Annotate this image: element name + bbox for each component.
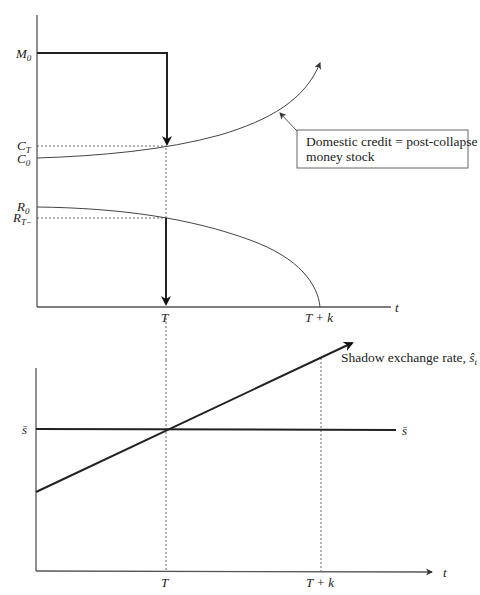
- fixed-rate-line: [36, 429, 396, 430]
- shadow-rate-line: [36, 343, 352, 492]
- reserves-curve: [37, 207, 320, 307]
- top-tick-t-plus-k: T + k: [305, 310, 333, 325]
- top-x-axis-label: t: [395, 300, 399, 315]
- annotation-pointer: [280, 113, 297, 131]
- annotation-line-1: Domestic credit = post-collapse: [306, 134, 477, 149]
- money-stock-line: [37, 53, 167, 144]
- annotation-line-2: money stock: [306, 149, 375, 164]
- sbar-left-label: s̄: [22, 422, 28, 437]
- bottom-chart: t s̄ s̄ Shadow exchange rate, ŝt T T + k: [22, 343, 477, 590]
- sbar-right-label: s̄: [402, 423, 408, 438]
- domestic-credit-curve: [37, 63, 320, 158]
- shadow-rate-label: Shadow exchange rate, ŝt: [341, 350, 477, 367]
- bottom-tick-t: T: [161, 575, 169, 590]
- top-tick-t: T: [161, 310, 169, 325]
- bottom-tick-t-plus-k: T + k: [306, 575, 334, 590]
- bottom-x-axis-label: t: [443, 565, 447, 580]
- top-chart: t M0 CT C0 R0 RT− T T + k Domestic credi…: [12, 15, 477, 360]
- bottom-x-axis: [36, 571, 432, 572]
- speculative-attack-diagram: t M0 CT C0 R0 RT− T T + k Domestic credi…: [0, 0, 480, 595]
- m0-label: M0: [15, 46, 32, 63]
